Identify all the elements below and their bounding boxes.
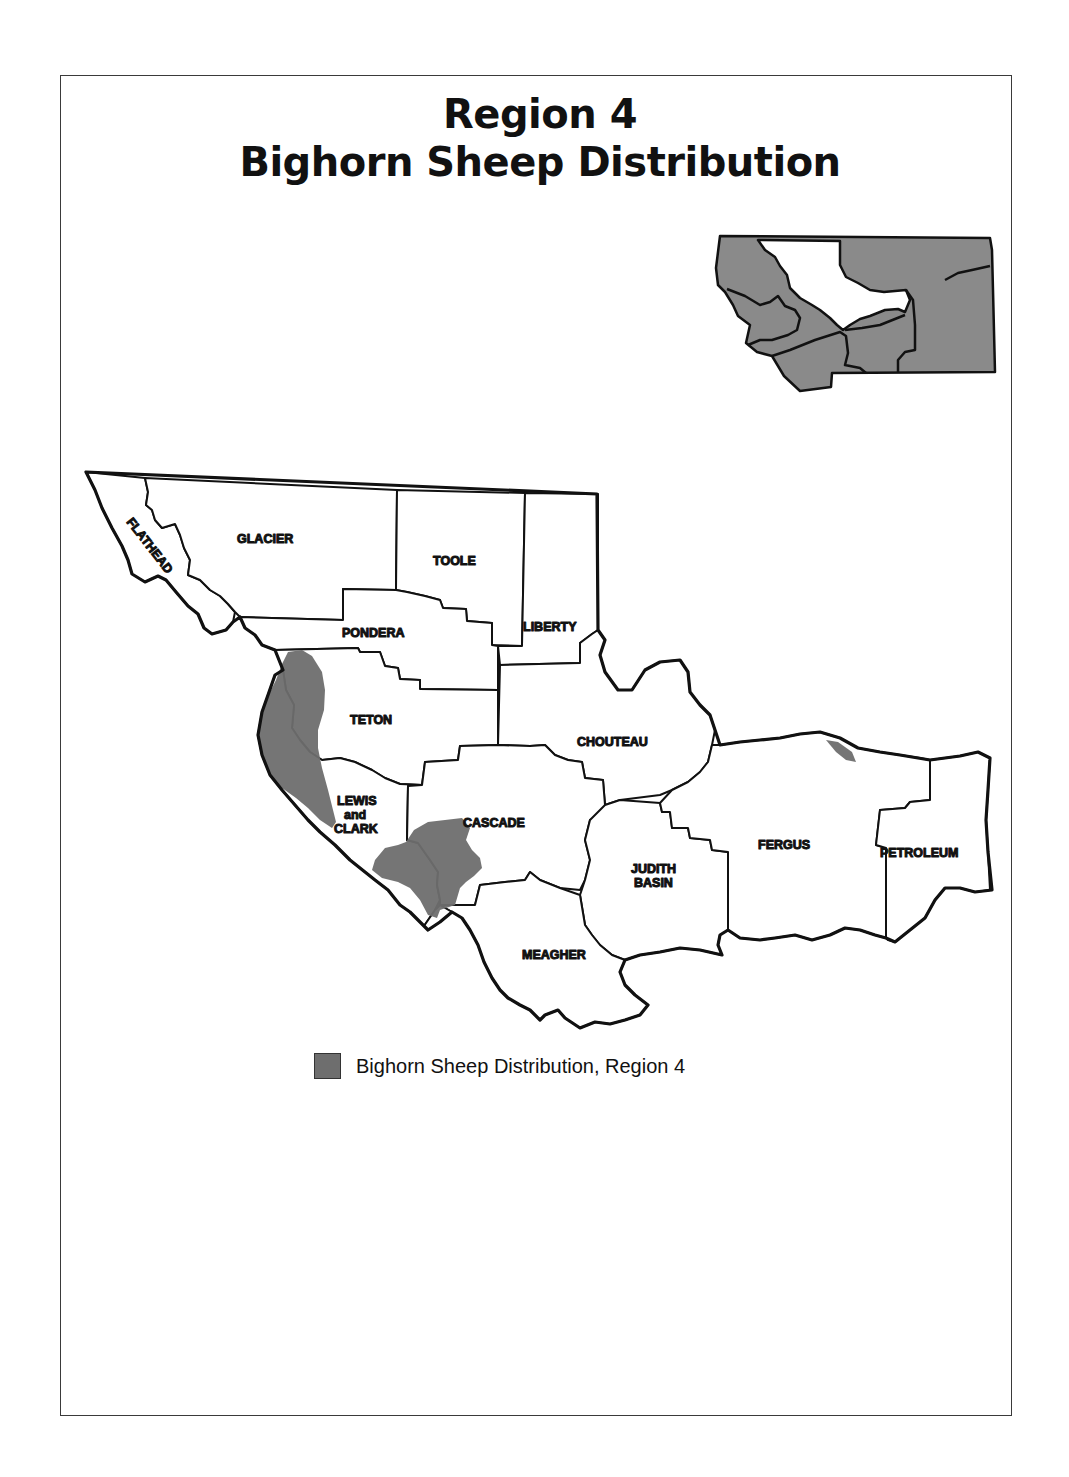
label-judith: JUDITH — [631, 862, 676, 876]
label-cascade: CASCADE — [463, 816, 525, 830]
label-meagher: MEAGHER — [522, 948, 586, 962]
label-toole: TOOLE — [433, 554, 476, 568]
legend-label: Bighorn Sheep Distribution, Region 4 — [356, 1055, 685, 1078]
label-lewis: LEWIS — [337, 794, 377, 808]
map-canvas: FLATHEAD GLACIER TOOLE LIBERTY PONDERA T… — [0, 0, 1069, 1477]
label-fergus: FERGUS — [758, 838, 810, 852]
legend: Bighorn Sheep Distribution, Region 4 — [314, 1053, 685, 1079]
label-and: and — [344, 808, 366, 822]
label-glacier: GLACIER — [237, 532, 293, 546]
legend-swatch-distribution — [314, 1053, 341, 1079]
inset-montana-map — [716, 236, 995, 391]
label-liberty: LIBERTY — [523, 620, 577, 634]
label-pondera: PONDERA — [342, 626, 405, 640]
label-basin: BASIN — [634, 876, 673, 890]
region-4-map: FLATHEAD GLACIER TOOLE LIBERTY PONDERA T… — [86, 472, 992, 1028]
label-chouteau: CHOUTEAU — [577, 735, 648, 749]
label-clark: CLARK — [334, 822, 378, 836]
label-petroleum: PETROLEUM — [880, 846, 958, 860]
label-teton: TETON — [350, 713, 392, 727]
